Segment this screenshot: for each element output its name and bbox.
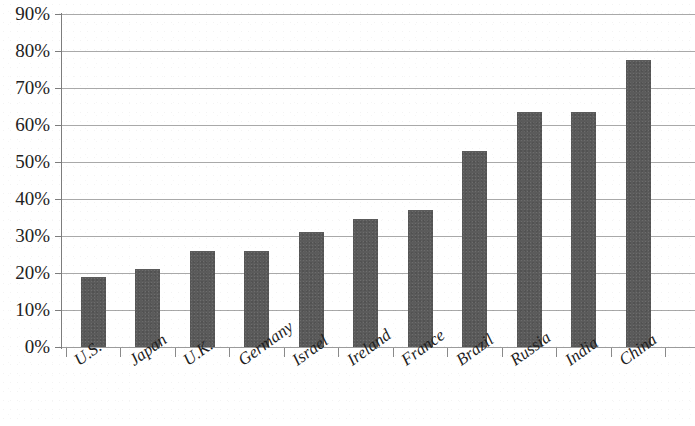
y-axis-label-20%: 20% bbox=[0, 263, 50, 282]
bar-ireland bbox=[353, 219, 378, 347]
x-tick-11 bbox=[665, 348, 666, 357]
y-tick-30% bbox=[55, 236, 62, 237]
gridline-60% bbox=[62, 125, 695, 126]
x-tick-5 bbox=[338, 348, 339, 357]
bar-russia bbox=[517, 112, 542, 347]
y-tick-90% bbox=[55, 14, 62, 15]
y-axis-label-10%: 10% bbox=[0, 300, 50, 319]
x-tick-10 bbox=[611, 348, 612, 357]
y-axis-label-0%: 0% bbox=[0, 337, 50, 356]
y-tick-50% bbox=[55, 162, 62, 163]
y-tick-80% bbox=[55, 51, 62, 52]
y-axis-label-50%: 50% bbox=[0, 152, 50, 171]
gridline-70% bbox=[62, 88, 695, 89]
y-axis-label-70%: 70% bbox=[0, 78, 50, 97]
y-axis-label-90%: 90% bbox=[0, 4, 50, 23]
y-axis-label-80%: 80% bbox=[0, 41, 50, 60]
y-tick-20% bbox=[55, 273, 62, 274]
x-tick-1 bbox=[120, 348, 121, 357]
x-tick-4 bbox=[284, 348, 285, 357]
bar-u-k bbox=[190, 251, 215, 347]
bar-india bbox=[571, 112, 596, 347]
gridline-50% bbox=[62, 162, 695, 163]
plot-area bbox=[62, 14, 695, 347]
x-tick-2 bbox=[175, 348, 176, 357]
bar-brazil bbox=[462, 151, 487, 347]
gridline-30% bbox=[62, 236, 695, 237]
x-tick-9 bbox=[556, 348, 557, 357]
y-tick-40% bbox=[55, 199, 62, 200]
y-tick-70% bbox=[55, 88, 62, 89]
bar-france bbox=[408, 210, 433, 347]
y-axis-label-60%: 60% bbox=[0, 115, 50, 134]
bar-chart: 0%10%20%30%40%50%60%70%80%90% U.S.JapanU… bbox=[0, 0, 695, 426]
y-tick-10% bbox=[55, 310, 62, 311]
y-tick-0% bbox=[55, 347, 62, 348]
x-tick-0 bbox=[66, 348, 67, 357]
y-tick-60% bbox=[55, 125, 62, 126]
gridline-90% bbox=[62, 14, 695, 15]
y-axis-label-40%: 40% bbox=[0, 189, 50, 208]
gridline-40% bbox=[62, 199, 695, 200]
gridline-80% bbox=[62, 51, 695, 52]
y-axis-label-30%: 30% bbox=[0, 226, 50, 245]
x-tick-3 bbox=[229, 348, 230, 357]
x-tick-7 bbox=[447, 348, 448, 357]
x-tick-6 bbox=[393, 348, 394, 357]
x-tick-8 bbox=[502, 348, 503, 357]
bar-china bbox=[626, 60, 651, 347]
